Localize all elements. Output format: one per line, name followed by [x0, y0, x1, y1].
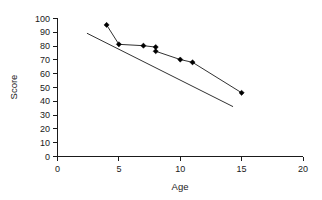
series-connector-line	[107, 25, 242, 93]
y-tick-label: 90	[40, 27, 50, 37]
trend-line	[87, 33, 233, 106]
data-point-marker	[178, 57, 183, 62]
data-point-marker	[116, 42, 121, 47]
x-tick-marks	[58, 157, 304, 162]
x-tick-label: 15	[237, 164, 247, 174]
data-point-marker	[141, 43, 146, 48]
data-point-marker	[239, 90, 244, 95]
y-tick-label: 100	[35, 14, 50, 24]
y-axis-title: Score	[8, 75, 19, 100]
y-tick-label: 50	[40, 83, 50, 93]
x-axis-title: Age	[172, 181, 189, 192]
y-tick-label: 80	[40, 41, 50, 51]
data-point-markers	[104, 22, 244, 95]
data-series-group	[104, 22, 244, 95]
y-tick-marks	[53, 19, 58, 157]
x-tick-labels: 0 5 10 15 20	[55, 164, 308, 174]
y-tick-label: 0	[45, 152, 50, 162]
x-tick-label: 20	[298, 164, 308, 174]
y-tick-label: 20	[40, 124, 50, 134]
y-tick-label: 60	[40, 69, 50, 79]
chart-container: 100 90 80 70 60 50 40 30 20 10 0 0 5 10 …	[0, 0, 322, 200]
x-tick-label: 10	[175, 164, 185, 174]
y-tick-label: 40	[40, 96, 50, 106]
plot-frame	[58, 18, 304, 157]
x-tick-label: 0	[55, 164, 60, 174]
y-tick-labels: 100 90 80 70 60 50 40 30 20 10 0	[35, 14, 50, 162]
data-point-marker	[104, 22, 109, 27]
score-vs-age-chart: 100 90 80 70 60 50 40 30 20 10 0 0 5 10 …	[0, 0, 322, 200]
trend-line-group	[87, 33, 233, 106]
y-tick-label: 10	[40, 138, 50, 148]
data-point-marker	[153, 49, 158, 54]
x-tick-label: 5	[116, 164, 121, 174]
data-point-marker	[190, 60, 195, 65]
y-tick-label: 30	[40, 110, 50, 120]
y-tick-label: 70	[40, 55, 50, 65]
